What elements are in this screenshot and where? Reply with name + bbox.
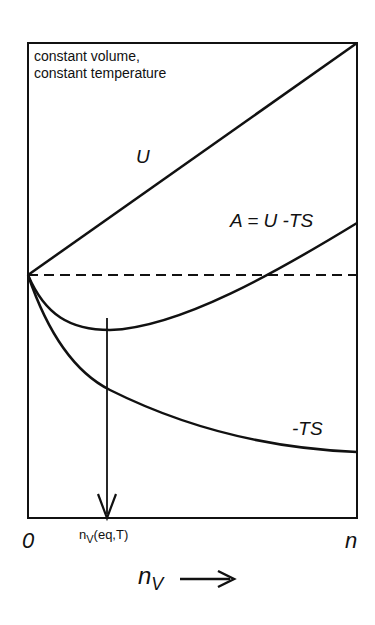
axis-sub: V: [151, 574, 163, 594]
axis-n: n: [138, 562, 151, 589]
label-U: U: [136, 146, 150, 168]
equilibrium-label: nV(eq,T): [79, 527, 128, 545]
x-end-label: n: [345, 528, 357, 554]
x-start-label: 0: [22, 528, 34, 554]
plot-frame: [28, 43, 357, 518]
condition-line-2: constant temperature: [34, 65, 166, 82]
eq-rest: (eq,T): [94, 527, 129, 542]
diagram-canvas: [0, 0, 375, 625]
condition-line-1: constant volume,: [34, 48, 166, 65]
label-A: A = U -TS: [230, 210, 313, 232]
conditions-note: constant volume, constant temperature: [34, 48, 166, 82]
label-minus-TS: -TS: [292, 418, 323, 440]
eq-sub: V: [86, 533, 93, 545]
x-axis-label: nV: [138, 562, 163, 595]
